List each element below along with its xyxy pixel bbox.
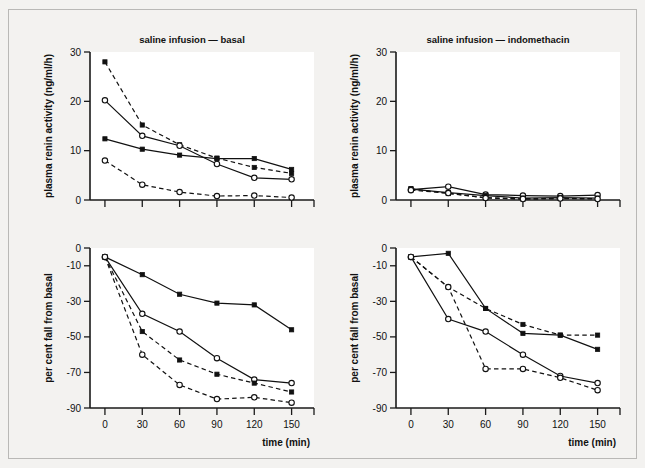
y-axis-title-top-right: plasma renin activity (ng/ml/h) bbox=[349, 54, 360, 198]
x-tick-label-bottom-right-4: 120 bbox=[552, 419, 569, 430]
marker-open-circle-top-left-3-5 bbox=[289, 195, 294, 200]
marker-open-circle-top-right-3-1 bbox=[446, 190, 451, 195]
marker-filled-square-bottom-right-0-5 bbox=[596, 347, 600, 351]
marker-open-circle-bottom-left-3-4 bbox=[252, 395, 257, 400]
marker-open-circle-top-left-3-2 bbox=[177, 189, 182, 194]
marker-filled-square-bottom-left-2-1 bbox=[140, 329, 144, 333]
x-tick-label-bottom-left-3: 90 bbox=[211, 419, 223, 430]
y-tick-label-bottom-left-0: 0 bbox=[75, 243, 81, 254]
marker-open-circle-bottom-left-1-2 bbox=[177, 329, 182, 334]
y-tick-label-bottom-left-5: -90 bbox=[67, 403, 82, 414]
marker-filled-square-top-left-0-4 bbox=[252, 165, 256, 169]
marker-filled-square-bottom-left-0-1 bbox=[140, 273, 144, 277]
x-tick-label-bottom-left-5: 150 bbox=[283, 419, 300, 430]
marker-open-circle-top-left-1-5 bbox=[289, 177, 294, 182]
marker-open-circle-bottom-right-3-4 bbox=[558, 375, 563, 380]
x-tick-label-bottom-left-4: 120 bbox=[246, 419, 263, 430]
marker-filled-square-bottom-right-1-5 bbox=[596, 333, 600, 337]
y-tick-label-bottom-right-2: -30 bbox=[373, 296, 388, 307]
marker-open-circle-top-right-3-0 bbox=[408, 187, 413, 192]
panel-bottom-left: 0-10-30-50-70-900306090120150time (min)p… bbox=[43, 243, 314, 449]
y-tick-label-bottom-right-1: -10 bbox=[373, 260, 388, 271]
marker-open-circle-top-left-1-3 bbox=[214, 161, 219, 166]
x-tick-label-bottom-left-1: 30 bbox=[137, 419, 149, 430]
marker-filled-square-bottom-left-2-3 bbox=[215, 372, 219, 376]
y-tick-label-bottom-right-4: -70 bbox=[373, 367, 388, 378]
marker-filled-square-top-left-0-0 bbox=[103, 60, 107, 64]
marker-filled-square-bottom-left-0-2 bbox=[178, 292, 182, 296]
y-axis-title-top-left: plasma renin activity (ng/ml/h) bbox=[43, 54, 54, 198]
marker-open-circle-bottom-right-2-3 bbox=[520, 352, 525, 357]
x-axis-title-bottom-right: time (min) bbox=[568, 437, 616, 448]
marker-open-circle-bottom-left-3-5 bbox=[289, 400, 294, 405]
panel-bottom-right: 0-10-30-50-70-900306090120150time (min)p… bbox=[349, 243, 620, 449]
marker-open-circle-top-left-1-1 bbox=[140, 133, 145, 138]
y-tick-label-top-right-0: 0 bbox=[381, 195, 387, 206]
plot-area-top-left bbox=[90, 52, 314, 200]
marker-open-circle-top-right-3-4 bbox=[558, 196, 563, 201]
marker-filled-square-bottom-right-1-3 bbox=[521, 322, 525, 326]
four-panel-chart: saline infusion — basal0102030plasma ren… bbox=[0, 0, 645, 468]
marker-open-circle-bottom-right-2-5 bbox=[595, 380, 600, 385]
marker-filled-square-top-left-0-1 bbox=[140, 123, 144, 127]
y-tick-label-top-right-2: 20 bbox=[376, 96, 388, 107]
marker-filled-square-bottom-left-0-5 bbox=[290, 328, 294, 332]
figure-root: saline infusion — basal0102030plasma ren… bbox=[0, 0, 645, 468]
y-tick-label-bottom-left-2: -30 bbox=[67, 296, 82, 307]
marker-open-circle-bottom-left-3-2 bbox=[177, 382, 182, 387]
marker-open-circle-top-left-3-4 bbox=[252, 193, 257, 198]
x-tick-label-bottom-right-0: 0 bbox=[408, 419, 414, 430]
marker-open-circle-bottom-right-3-1 bbox=[446, 284, 451, 289]
marker-filled-square-top-left-2-4 bbox=[252, 156, 256, 160]
marker-filled-square-bottom-left-2-5 bbox=[290, 390, 294, 394]
y-tick-label-top-left-3: 30 bbox=[70, 47, 82, 58]
marker-open-circle-top-right-1-1 bbox=[446, 184, 451, 189]
marker-open-circle-top-left-1-2 bbox=[177, 143, 182, 148]
marker-open-circle-top-left-3-0 bbox=[102, 158, 107, 163]
marker-open-circle-top-left-1-4 bbox=[252, 175, 257, 180]
y-tick-label-top-left-1: 10 bbox=[70, 145, 82, 156]
x-axis-title-bottom-left: time (min) bbox=[262, 437, 310, 448]
marker-filled-square-bottom-right-0-1 bbox=[446, 251, 450, 255]
marker-open-circle-bottom-right-3-3 bbox=[520, 366, 525, 371]
marker-filled-square-bottom-left-0-3 bbox=[215, 301, 219, 305]
marker-open-circle-bottom-left-1-3 bbox=[214, 356, 219, 361]
panel-top-right: saline infusion — indomethacin0102030pla… bbox=[349, 34, 620, 207]
panel-top-left: saline infusion — basal0102030plasma ren… bbox=[43, 34, 314, 207]
marker-open-circle-bottom-left-1-5 bbox=[289, 380, 294, 385]
y-tick-label-top-left-2: 20 bbox=[70, 96, 82, 107]
marker-open-circle-top-right-3-5 bbox=[595, 196, 600, 201]
y-tick-label-top-right-3: 30 bbox=[376, 47, 388, 58]
marker-open-circle-bottom-right-3-2 bbox=[483, 366, 488, 371]
marker-open-circle-bottom-right-3-5 bbox=[595, 388, 600, 393]
y-tick-label-bottom-left-3: -50 bbox=[67, 331, 82, 342]
marker-open-circle-bottom-right-2-1 bbox=[446, 316, 451, 321]
marker-filled-square-bottom-left-2-4 bbox=[252, 381, 256, 385]
marker-open-circle-bottom-left-1-1 bbox=[140, 311, 145, 316]
marker-filled-square-bottom-left-2-2 bbox=[178, 358, 182, 362]
x-tick-label-bottom-right-3: 90 bbox=[517, 419, 529, 430]
marker-filled-square-bottom-right-1-2 bbox=[484, 306, 488, 310]
plot-area-top-right bbox=[396, 52, 620, 200]
panel-title-top-right: saline infusion — indomethacin bbox=[426, 34, 569, 45]
marker-filled-square-bottom-left-0-4 bbox=[252, 303, 256, 307]
marker-open-circle-bottom-left-3-3 bbox=[214, 396, 219, 401]
marker-open-circle-bottom-left-3-0 bbox=[102, 254, 107, 259]
x-tick-label-bottom-right-1: 30 bbox=[443, 419, 455, 430]
marker-open-circle-top-left-1-0 bbox=[102, 98, 107, 103]
y-tick-label-bottom-right-5: -90 bbox=[373, 403, 388, 414]
marker-open-circle-bottom-right-3-0 bbox=[408, 254, 413, 259]
x-tick-label-bottom-left-2: 60 bbox=[174, 419, 186, 430]
y-tick-label-top-left-0: 0 bbox=[75, 195, 81, 206]
marker-open-circle-top-left-3-1 bbox=[140, 182, 145, 187]
marker-open-circle-top-left-3-3 bbox=[214, 193, 219, 198]
y-axis-title-bottom-right: per cent fall from basal bbox=[349, 273, 360, 383]
marker-open-circle-bottom-right-2-2 bbox=[483, 329, 488, 334]
marker-filled-square-top-left-2-3 bbox=[215, 156, 219, 160]
marker-open-circle-bottom-left-3-1 bbox=[140, 352, 145, 357]
marker-filled-square-top-left-2-1 bbox=[140, 147, 144, 151]
marker-filled-square-top-left-2-0 bbox=[103, 137, 107, 141]
y-tick-label-top-right-1: 10 bbox=[376, 145, 388, 156]
panel-title-top-left: saline infusion — basal bbox=[139, 34, 245, 45]
marker-filled-square-top-left-2-2 bbox=[178, 153, 182, 157]
